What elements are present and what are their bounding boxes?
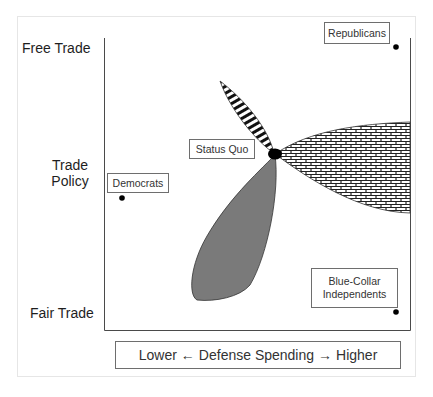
diagram-canvas — [0, 0, 433, 397]
x-axis-low-label: Lower — [139, 347, 177, 363]
republicans-dot — [393, 44, 399, 50]
republicans-label: Republicans — [324, 22, 390, 44]
democrats-label: Democrats — [107, 173, 169, 193]
status-quo-label: Status Quo — [189, 139, 255, 159]
x-axis-title-box: Lower ← Defense Spending → Higher — [115, 341, 401, 369]
blue-collar-label-line1: Blue-Collar — [312, 275, 397, 288]
gray-petal-region — [192, 155, 276, 300]
blue-collar-label-line2: Independents — [312, 288, 397, 301]
x-axis-high-label: Higher — [336, 347, 377, 363]
arrow-right-icon: → — [318, 347, 332, 363]
arrow-left-icon: ← — [181, 347, 195, 363]
status-quo-dot — [268, 149, 282, 160]
x-axis-title: Defense Spending — [199, 347, 314, 363]
brick-petal-region — [275, 122, 410, 213]
blue-collar-dot — [393, 309, 399, 315]
blue-collar-label: Blue-Collar Independents — [311, 268, 398, 308]
democrats-dot — [119, 195, 125, 201]
